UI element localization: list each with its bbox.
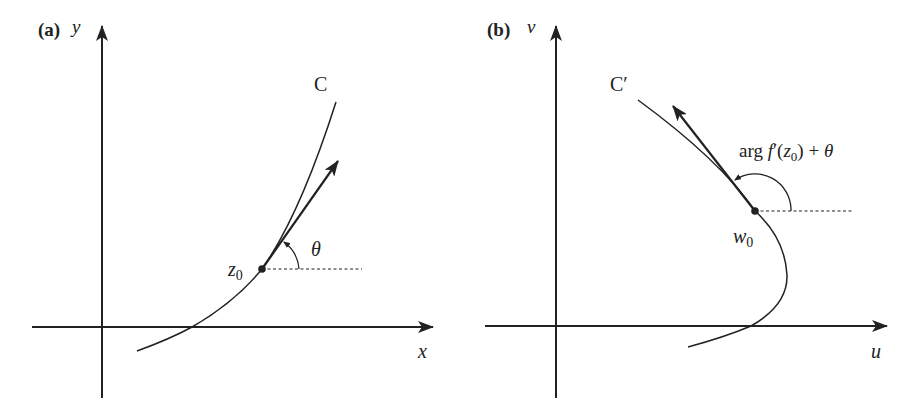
panel-b-point-w0 xyxy=(751,207,759,215)
panel-b-curve-label: C′ xyxy=(610,73,628,95)
panel-b-curve-c-prime xyxy=(638,100,787,347)
panel-b-angle-arc xyxy=(735,174,791,211)
panel-b-point-label: w0 xyxy=(733,225,753,250)
panel-a-tag: (a) xyxy=(38,19,60,41)
panel-a-angle-label: θ xyxy=(311,238,321,260)
panel-a-x-axis-label: x xyxy=(417,340,427,362)
panel-b: (b) v u C′ arg f′(z0) + θ w0 xyxy=(485,16,887,398)
panel-b-tag: (b) xyxy=(487,19,510,41)
panel-a-point-label: z0 xyxy=(227,258,243,283)
panel-b-u-axis-label: u xyxy=(871,340,881,362)
panel-a-angle-arc xyxy=(284,242,299,269)
panel-a-tangent-arrow xyxy=(262,161,338,269)
panel-b-y-axis-label: v xyxy=(527,16,536,37)
panel-a-curve-label: C xyxy=(314,73,327,95)
panel-a: (a) y x C θ z0 xyxy=(32,16,433,398)
panel-a-point-z0 xyxy=(258,265,266,273)
panel-a-curve-c xyxy=(137,102,336,351)
panel-b-angle-label: arg f′(z0) + θ xyxy=(739,140,833,164)
conformal-mapping-figure: (a) y x C θ z0 (b) v u C′ xyxy=(0,0,918,416)
panel-a-y-axis-label: y xyxy=(70,16,81,37)
